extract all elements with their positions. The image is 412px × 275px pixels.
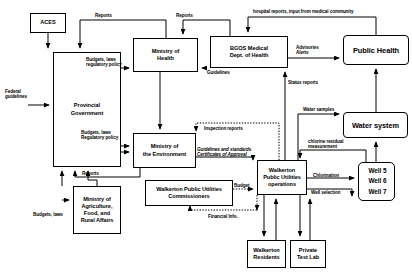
node-walkerton-residents[interactable]: Walkerton Residents: [247, 240, 286, 268]
edge-wells-to-wpuops: [300, 150, 366, 162]
node-provincial-government-label: Provincial Government: [70, 102, 104, 116]
edge-label-budgets-laws-moe: Budgets, laws Regulatory policy: [81, 130, 118, 141]
node-aces[interactable]: ACES: [30, 13, 66, 33]
node-wells[interactable]: Well 5 Well 6 Well 7: [358, 162, 395, 201]
edge-label-financial-info: Financial Info.: [208, 214, 238, 219]
edge-publichealth-to-bgos: [248, 17, 376, 35]
node-walkerton-residents-label: Walkerton Residents: [252, 247, 280, 261]
edge-label-guidelines-standards: Guidelines and standards Certificates of…: [197, 147, 251, 158]
edge-label-reports-moh: Reports: [95, 13, 112, 18]
edge-label-reports-bgos: Reports: [176, 13, 193, 18]
edge-bgos-reports-to-moh: [183, 20, 230, 36]
node-ministry-of-agriculture-label: Ministry of Agriculture, Food, and Rural…: [80, 196, 115, 225]
node-public-health-label: Public Health: [352, 46, 400, 55]
node-wells-label: Well 5 Well 6 Well 7: [365, 166, 387, 198]
edge-label-reports-moa: Reports: [82, 171, 99, 176]
edge-label-budgets-laws-moh: Budgets, laws regulatory policy: [86, 57, 122, 68]
edge-label-chlorine-residual: chlorine residual measurement: [308, 139, 343, 150]
node-water-system[interactable]: Water system: [343, 112, 408, 138]
node-ministry-of-health[interactable]: Ministry of Health: [133, 38, 198, 72]
node-wpu-operations-label: Walkerton Public Utilities operations: [262, 167, 302, 189]
node-wpu-commissioners-label: Walkerton Public Utilities Commissioners: [155, 186, 223, 200]
edge-label-guidelines-moh: Guidelines: [207, 70, 230, 75]
node-bgos-medical-dept[interactable]: BGOS Medical Dept. of Health: [210, 36, 288, 68]
node-public-health[interactable]: Public Health: [343, 35, 409, 65]
edge-financial-info-dotted-ops-to-comm: [190, 206, 257, 210]
edge-label-federal-guidelines: Federal guidelines: [5, 89, 27, 100]
edge-label-hospital-reports: hospital reports, input from medical com…: [253, 9, 353, 14]
node-water-system-label: Water system: [351, 121, 400, 130]
node-bgos-medical-dept-label: BGOS Medical Dept. of Health: [229, 45, 270, 59]
node-wpu-operations[interactable]: Walkerton Public Utilities operations: [257, 160, 307, 195]
edge-label-budget: Budget: [234, 183, 249, 188]
node-private-test-lab[interactable]: Private Test Lab: [290, 240, 326, 268]
node-wpu-commissioners[interactable]: Walkerton Public Utilities Commissioners: [145, 180, 233, 206]
edge-wpuops-to-watersystem: [298, 114, 339, 160]
edge-label-well-selection: Well selection: [311, 190, 340, 195]
node-ministry-of-agriculture[interactable]: Ministry of Agriculture, Food, and Rural…: [73, 186, 121, 234]
diagram-canvas: ACES Provincial Government Ministry of H…: [0, 0, 412, 275]
edge-label-water-samples: Water samples: [303, 107, 334, 112]
edge-label-chlorination: Chlorination: [313, 173, 339, 178]
edge-label-status-reports: Status reports: [288, 80, 318, 85]
node-provincial-government[interactable]: Provincial Government: [53, 52, 121, 167]
node-ministry-of-health-label: Ministry of Health: [151, 48, 181, 62]
edge-label-advisories-alerts: Advisories Alerts: [296, 45, 319, 56]
edge-label-inspection-reports: Inspection reports: [204, 126, 243, 131]
edge-label-budgets-laws-moa: Budgets, laws: [33, 212, 63, 217]
node-ministry-of-environment-label: Ministry of the Environment: [142, 143, 187, 157]
node-ministry-of-environment[interactable]: Ministry of the Environment: [133, 133, 196, 168]
node-aces-label: ACES: [39, 19, 56, 26]
node-private-test-lab-label: Private Test Lab: [296, 247, 320, 261]
